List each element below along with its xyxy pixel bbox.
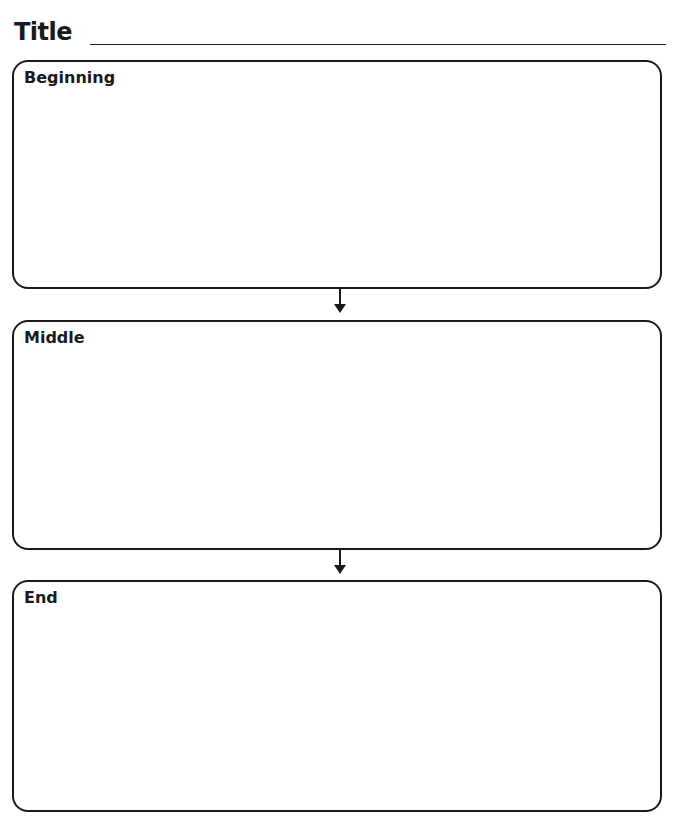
- section-middle: Middle: [12, 320, 662, 550]
- title-input-line[interactable]: [90, 44, 666, 45]
- arrow-down-icon: [334, 289, 346, 314]
- section-writing-area-beginning[interactable]: [22, 94, 652, 279]
- section-end: End: [12, 580, 662, 812]
- arrow-down-icon: [334, 550, 346, 575]
- section-label-beginning: Beginning: [24, 68, 115, 87]
- section-label-middle: Middle: [24, 328, 85, 347]
- title-label: Title: [14, 18, 72, 46]
- title-row: Title: [14, 18, 666, 48]
- section-writing-area-middle[interactable]: [22, 354, 652, 540]
- section-label-end: End: [24, 588, 58, 607]
- section-writing-area-end[interactable]: [22, 614, 652, 802]
- section-beginning: Beginning: [12, 60, 662, 289]
